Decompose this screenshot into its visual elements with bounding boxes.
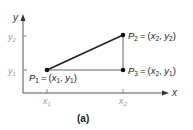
point-p3: [121, 68, 126, 73]
y-axis-arrow-icon: [21, 14, 26, 21]
coordinate-diagram: y x y2 y1 x1 x2 P1=(x1, y1) P2=(x2, y2) …: [0, 0, 193, 130]
point-p2: [121, 33, 126, 38]
p3-label: P3=(x2, y1): [128, 65, 176, 77]
y2-tick-label: y2: [7, 32, 17, 43]
diagram-canvas: y x y2 y1 x1 x2 P1=(x1, y1) P2=(x2, y2) …: [0, 0, 193, 130]
p2-label: P2=(x2, y2): [128, 30, 176, 42]
x-axis-arrow-icon: [162, 91, 169, 96]
y-axis-label: y: [12, 12, 19, 23]
x2-tick-label: x2: [118, 96, 128, 107]
x-axis-label: x: [171, 87, 178, 98]
p1-label: P1=(x1, y1): [29, 72, 77, 84]
x1-tick-label: x1: [42, 96, 51, 107]
figure-caption: (a): [77, 113, 89, 124]
hypotenuse-segment: [47, 35, 123, 70]
y1-tick-label: y1: [7, 66, 16, 77]
